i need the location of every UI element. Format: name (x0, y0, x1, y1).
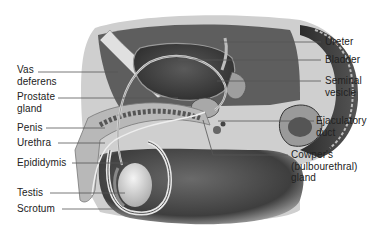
label-ureter: Ureter (325, 36, 353, 48)
label-scrotum: Scrotum (17, 203, 55, 215)
label-penis: Penis (17, 122, 43, 134)
label-ejaculatory-duct: Ejaculatory duct (316, 115, 367, 138)
label-seminal-vesicle: Seminal vesicle (325, 75, 362, 98)
label-testis: Testis (17, 187, 43, 199)
label-urethra: Urethra (17, 137, 51, 149)
label-cowpers-gland: Cowper's (bulbourethral) gland (291, 149, 358, 184)
label-vas-deferens: Vas deferens (17, 64, 57, 87)
testis-shape (118, 163, 152, 207)
label-bladder: Bladder (325, 54, 360, 66)
label-epididymis: Epididymis (17, 157, 66, 169)
label-prostate-gland: Prostate gland (17, 91, 55, 114)
